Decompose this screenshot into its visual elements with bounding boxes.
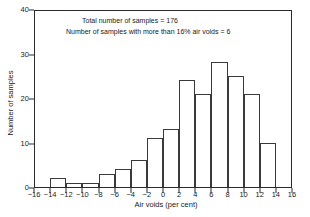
y-tick-label: 30 <box>20 51 29 59</box>
histogram-bar <box>99 174 115 187</box>
histogram-bar <box>66 183 82 187</box>
histogram-figure: 010203040 Number of samples −16−14−12−10… <box>0 0 310 217</box>
histogram-bar <box>115 169 131 187</box>
x-tick-mark <box>163 188 164 193</box>
x-tick-mark <box>146 188 147 193</box>
histogram-bar <box>163 129 179 187</box>
histogram-bar <box>260 143 276 188</box>
x-axis-title-text: Air voids (per cent) <box>135 200 198 209</box>
x-tick-mark <box>275 188 276 193</box>
x-tick-mark <box>50 188 51 193</box>
x-tick-mark <box>179 188 180 193</box>
x-tick-mark <box>82 188 83 193</box>
histogram-bar <box>195 94 211 187</box>
x-tick-mark <box>114 188 115 193</box>
histogram-bar <box>50 178 66 187</box>
x-tick-mark <box>66 188 67 193</box>
histogram-bar <box>82 183 98 187</box>
x-tick-mark <box>259 188 260 193</box>
x-tick-mark <box>211 188 212 193</box>
histogram-bar <box>244 94 260 187</box>
histogram-bar <box>228 76 244 187</box>
histogram-bar <box>179 80 195 187</box>
x-axis-title: Air voids (per cent) <box>0 200 310 209</box>
histogram-bar <box>147 138 163 187</box>
histogram-bar <box>211 62 227 187</box>
annotation-total-samples: Total number of samples = 176 <box>66 16 230 27</box>
x-tick-mark <box>98 188 99 193</box>
x-tick-mark <box>195 188 196 193</box>
y-tick-label: 10 <box>20 140 29 148</box>
y-tick-label: 40 <box>20 6 29 14</box>
y-tick-label: 20 <box>20 95 29 103</box>
x-tick-mark <box>243 188 244 193</box>
annotation-high-voids: Number of samples with more than 16% air… <box>66 27 230 38</box>
x-tick-mark <box>292 188 293 193</box>
chart-annotations: Total number of samples = 176 Number of … <box>66 16 230 37</box>
x-tick-mark <box>227 188 228 193</box>
y-axis-title: Number of samples <box>7 48 15 158</box>
x-tick-mark <box>34 188 35 193</box>
x-tick-mark <box>130 188 131 193</box>
histogram-bar <box>131 160 147 187</box>
histogram-bars <box>35 11 291 187</box>
